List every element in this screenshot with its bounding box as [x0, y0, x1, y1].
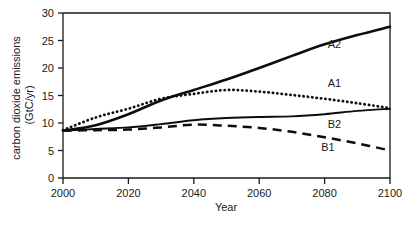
x-tick-label: 2060: [247, 187, 271, 199]
series-label-a1: A1: [328, 77, 341, 89]
y-tick-label: 0: [48, 172, 54, 184]
y-axis-title-line1: carbon dioxide emissions: [10, 36, 22, 160]
y-tick-label: 5: [48, 145, 54, 157]
x-tick-label: 2100: [378, 187, 402, 199]
emissions-line-chart: 051015202530 200020202040206020802100 ca…: [0, 0, 415, 225]
y-tick-label: 30: [42, 7, 54, 19]
x-tick-label: 2020: [116, 187, 140, 199]
series-label-a2: A2: [328, 38, 341, 50]
x-tick-label: 2040: [182, 187, 206, 199]
x-axis-tick-labels: 200020202040206020802100: [51, 187, 402, 199]
y-axis-ticks: [58, 13, 63, 178]
y-axis-tick-labels: 051015202530: [42, 7, 54, 184]
x-axis-ticks: [63, 178, 390, 184]
series-label-b1: B1: [321, 141, 334, 153]
x-tick-label: 2000: [51, 187, 75, 199]
x-tick-label: 2080: [312, 187, 336, 199]
chart-canvas: 051015202530 200020202040206020802100 ca…: [0, 0, 415, 225]
y-tick-label: 10: [42, 117, 54, 129]
y-tick-label: 15: [42, 90, 54, 102]
y-tick-label: 25: [42, 35, 54, 47]
x-axis-title: Year: [215, 201, 238, 213]
y-axis-title-line2: (GtC/yr): [23, 85, 35, 124]
y-tick-label: 20: [42, 62, 54, 74]
series-label-b2: B2: [328, 118, 341, 130]
